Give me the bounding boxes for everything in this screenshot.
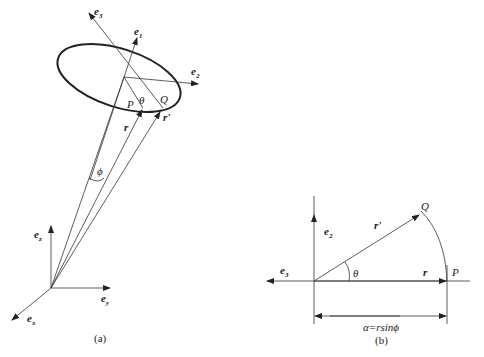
figure-a: e3 e1 e2 P θ Q r r' ϕ ez ey ex (a) <box>12 5 200 345</box>
label-ey: ey <box>101 292 110 307</box>
caption-b: (b) <box>375 334 388 347</box>
b-label-e3: e3 <box>280 264 289 279</box>
label-P: P <box>126 98 134 110</box>
b-label-r: r <box>423 266 428 278</box>
e3-long-ray <box>51 77 124 288</box>
label-e2: e2 <box>191 65 200 80</box>
e2-axis <box>124 77 198 84</box>
b-label-theta: θ <box>353 267 359 279</box>
label-Q: Q <box>160 93 168 105</box>
diagram-canvas: e3 e1 e2 P θ Q r r' ϕ ez ey ex (a) e2 <box>0 0 484 357</box>
label-r: r <box>124 121 129 133</box>
label-ex: ex <box>27 312 36 327</box>
label-e3: e3 <box>94 5 103 20</box>
label-phi: ϕ <box>97 165 103 177</box>
b-r-prime-vector <box>314 215 419 281</box>
r-prime-vector <box>51 112 160 288</box>
label-r-prime: r' <box>163 111 170 123</box>
phi-arc <box>89 178 104 181</box>
r-vector <box>51 110 142 288</box>
label-theta-a: θ <box>139 94 145 106</box>
b-label-alpha-eq: α=rsinϕ <box>363 321 399 333</box>
b-label-P: P <box>451 266 459 278</box>
b-theta-arc <box>345 262 350 281</box>
figure-b: e2 e3 Q r' θ r P α=rsinϕ (b) <box>267 196 470 347</box>
caption-a: (a) <box>94 332 107 345</box>
b-label-r-prime: r' <box>374 219 381 231</box>
label-ez: ez <box>34 228 42 243</box>
label-e1: e1 <box>134 25 142 40</box>
b-label-Q: Q <box>421 200 429 212</box>
b-label-e2: e2 <box>324 225 333 240</box>
